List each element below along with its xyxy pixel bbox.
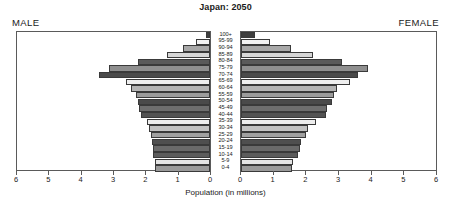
age-group-axis: 100+95-9990-9485-8980-8475-7970-7465-696… bbox=[211, 31, 240, 171]
axis-tick-label: 1 bbox=[176, 175, 180, 184]
age-group-label: 10-14 bbox=[211, 151, 240, 158]
bar-row bbox=[17, 59, 210, 66]
bar-row bbox=[17, 99, 210, 106]
bar-row bbox=[17, 119, 210, 126]
age-group-label: 25-29 bbox=[211, 131, 240, 138]
bar-row bbox=[17, 152, 210, 159]
bar-male-85-89 bbox=[167, 52, 210, 58]
bar-male-40-44 bbox=[141, 112, 210, 118]
bar-female-90-94 bbox=[241, 45, 291, 51]
bar-row bbox=[17, 112, 210, 119]
bar-female-30-34 bbox=[241, 125, 308, 131]
bar-row bbox=[17, 92, 210, 99]
bar-row bbox=[241, 52, 436, 59]
bar-male-100plus bbox=[206, 32, 210, 38]
age-group-label: 5-9 bbox=[211, 157, 240, 164]
bar-row bbox=[241, 152, 436, 159]
axis-tick-label: 2 bbox=[303, 175, 307, 184]
axis-tick-label: 3 bbox=[336, 175, 340, 184]
axis-tick-label: 3 bbox=[111, 175, 115, 184]
bar-row bbox=[17, 105, 210, 112]
age-group-label: 20-24 bbox=[211, 137, 240, 144]
bar-row bbox=[241, 85, 436, 92]
bar-male-65-69 bbox=[126, 79, 210, 85]
bar-male-75-79 bbox=[109, 65, 210, 71]
bar-row bbox=[241, 65, 436, 72]
age-group-label: 50-54 bbox=[211, 97, 240, 104]
bar-row bbox=[17, 65, 210, 72]
bar-row bbox=[241, 72, 436, 79]
age-group-label: 45-49 bbox=[211, 104, 240, 111]
male-panel-label: MALE bbox=[12, 17, 39, 28]
bar-female-65-69 bbox=[241, 79, 350, 85]
age-group-label: 60-64 bbox=[211, 84, 240, 91]
male-bar-rows bbox=[17, 32, 210, 170]
bar-row bbox=[17, 132, 210, 139]
bar-male-95-99 bbox=[196, 39, 210, 45]
bar-male-45-49 bbox=[139, 105, 210, 111]
female-plot-area bbox=[240, 31, 437, 171]
age-group-label: 95-99 bbox=[211, 37, 240, 44]
bar-row bbox=[17, 72, 210, 79]
bar-row bbox=[17, 32, 210, 39]
female-panel-label: FEMALE bbox=[399, 17, 439, 28]
female-x-axis: 0123456 bbox=[240, 171, 437, 185]
bar-row bbox=[241, 79, 436, 86]
bar-female-60-64 bbox=[241, 85, 337, 91]
bar-female-45-49 bbox=[241, 105, 327, 111]
chart-title: Japan: 2050 bbox=[0, 2, 451, 12]
age-group-label: 90-94 bbox=[211, 44, 240, 51]
axis-tick-label: 6 bbox=[434, 175, 438, 184]
bar-male-30-34 bbox=[149, 125, 210, 131]
axis-tick-label: 1 bbox=[271, 175, 275, 184]
bar-row bbox=[17, 39, 210, 46]
male-plot-area bbox=[16, 31, 211, 171]
bar-female-80-84 bbox=[241, 59, 342, 65]
age-group-label: 80-84 bbox=[211, 57, 240, 64]
bar-female-40-44 bbox=[241, 112, 326, 118]
bar-female-5-9 bbox=[241, 159, 293, 165]
bar-row bbox=[17, 45, 210, 52]
axis-tick-label: 5 bbox=[401, 175, 405, 184]
bar-male-35-39 bbox=[147, 119, 210, 125]
bar-male-80-84 bbox=[138, 59, 210, 65]
bar-male-55-59 bbox=[136, 92, 210, 98]
bar-male-70-74 bbox=[99, 72, 210, 78]
bar-male-25-29 bbox=[151, 132, 211, 138]
age-group-label: 65-69 bbox=[211, 77, 240, 84]
bar-female-20-24 bbox=[241, 139, 301, 145]
bar-female-75-79 bbox=[241, 65, 368, 71]
bar-female-10-14 bbox=[241, 152, 298, 158]
population-pyramid-chart: Japan: 2050 MALE FEMALE 100+95-9990-9485… bbox=[0, 0, 451, 211]
bar-female-50-54 bbox=[241, 99, 332, 105]
bar-row bbox=[17, 125, 210, 132]
bar-male-60-64 bbox=[131, 85, 210, 91]
bar-row bbox=[241, 112, 436, 119]
male-x-axis: 6543210 bbox=[16, 171, 211, 185]
bar-female-55-59 bbox=[241, 92, 334, 98]
bar-female-95-99 bbox=[241, 39, 270, 45]
bar-row bbox=[241, 125, 436, 132]
female-bar-rows bbox=[241, 32, 436, 170]
bar-male-90-94 bbox=[183, 45, 210, 51]
bar-row bbox=[17, 159, 210, 166]
bar-row bbox=[241, 45, 436, 52]
bar-male-50-54 bbox=[138, 99, 210, 105]
bar-row bbox=[241, 159, 436, 166]
age-group-label: 75-79 bbox=[211, 64, 240, 71]
axis-tick-label: 2 bbox=[143, 175, 147, 184]
bar-row bbox=[17, 145, 210, 152]
bar-row bbox=[17, 85, 210, 92]
bar-row bbox=[241, 99, 436, 106]
axis-tick-label: 5 bbox=[46, 175, 50, 184]
bar-row bbox=[241, 59, 436, 66]
bar-female-85-89 bbox=[241, 52, 313, 58]
bar-male-5-9 bbox=[155, 159, 210, 165]
age-group-label: 85-89 bbox=[211, 51, 240, 58]
bar-row bbox=[241, 139, 436, 146]
bar-row bbox=[241, 39, 436, 46]
axis-tick-label: 0 bbox=[238, 175, 242, 184]
bar-male-15-19 bbox=[153, 145, 210, 151]
bar-row bbox=[17, 79, 210, 86]
bar-row bbox=[241, 132, 436, 139]
